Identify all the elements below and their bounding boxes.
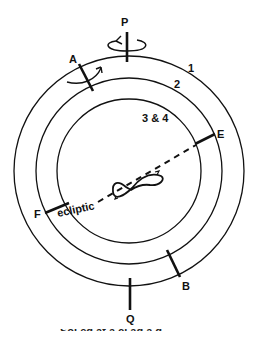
- ring-3-4: [57, 99, 201, 243]
- point-label-b: B: [182, 280, 190, 292]
- point-label-f: F: [34, 208, 41, 220]
- ring-label-3-4: 3 & 4: [142, 112, 169, 124]
- point-label-a: A: [69, 53, 77, 65]
- figure-eight-path: [113, 171, 163, 199]
- axis-b-marker: [167, 250, 180, 277]
- point-label-p: P: [121, 16, 128, 28]
- ring-label-1: 1: [188, 62, 194, 74]
- ecliptic-label: ecliptic: [56, 199, 96, 219]
- ring-1: [14, 56, 244, 286]
- celestial-rings-diagram: 1 2 3 & 4 P A B Q E F ecliptic: [0, 0, 259, 339]
- axis-e-marker: [195, 134, 215, 144]
- ring-label-2: 2: [174, 78, 180, 90]
- point-label-e: E: [217, 128, 224, 140]
- point-label-q: Q: [126, 313, 135, 325]
- axis-a-marker: [79, 64, 93, 91]
- ring-2: [36, 78, 222, 264]
